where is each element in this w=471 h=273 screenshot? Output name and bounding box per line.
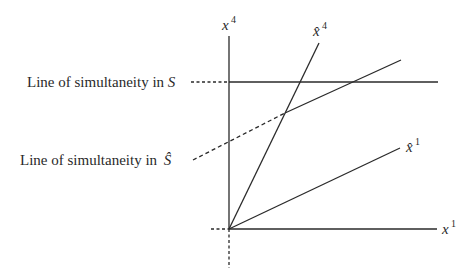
simultaneity-line-S-hat <box>285 60 401 113</box>
svg-text:4: 4 <box>231 14 236 25</box>
svg-text:x̂: x̂ <box>312 23 320 39</box>
svg-text:4: 4 <box>322 20 327 31</box>
x4-hat-label: x̂ 4 <box>312 20 327 39</box>
simultaneity-S-hat-leader <box>193 113 285 160</box>
x1-label: x 1 <box>441 218 456 237</box>
caption-simultaneity-S: Line of simultaneity in S <box>27 74 176 90</box>
svg-text:x̂: x̂ <box>405 139 413 155</box>
spacetime-diagram: x 4 x̂ 4 x̂ 1 x 1 Line of simultaneity i… <box>0 0 471 273</box>
x4-hat-axis <box>229 43 319 229</box>
svg-text:x: x <box>441 221 449 237</box>
svg-text:x: x <box>221 17 229 33</box>
svg-text:1: 1 <box>451 218 456 229</box>
x4-label: x 4 <box>221 14 236 33</box>
caption-simultaneity-S-hat: Line of simultaneity in Ŝ <box>20 152 172 168</box>
x1-hat-axis <box>229 148 400 229</box>
svg-text:1: 1 <box>415 136 420 147</box>
svg-text:Line of simultaneity in S: Line of simultaneity in S <box>27 74 176 90</box>
x1-hat-label: x̂ 1 <box>405 136 420 155</box>
svg-text:Line of simultaneity in Ŝ: Line of simultaneity in Ŝ <box>20 152 172 168</box>
